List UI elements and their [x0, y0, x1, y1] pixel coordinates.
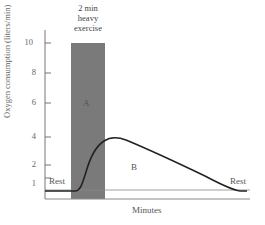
chart-canvas: [0, 0, 265, 225]
y-ticks: [45, 43, 51, 178]
y-axis-label: Oxygen consumption (liters/min): [2, 5, 12, 118]
region-label-b: B: [131, 162, 137, 172]
exercise-label: 2 min heavy exercise: [71, 3, 105, 33]
x-axis-label: Minutes: [132, 205, 162, 215]
exercise-shaded-region: [71, 43, 105, 199]
ytick-10: 10: [21, 37, 33, 47]
ytick-1: 1: [24, 178, 36, 188]
ytick-8: 8: [24, 67, 36, 77]
ytick-6: 6: [24, 97, 36, 107]
ytick-4: 4: [24, 131, 36, 141]
region-label-a: A: [83, 98, 90, 108]
rest-label-left: Rest: [49, 176, 65, 186]
ytick-2: 2: [24, 159, 36, 169]
rest-label-right: Rest: [230, 176, 246, 186]
